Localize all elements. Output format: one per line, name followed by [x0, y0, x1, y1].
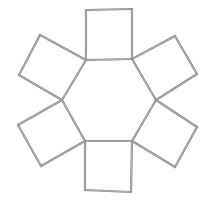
square-matchstick-highlight	[132, 141, 175, 167]
hexagon-matchstick-highlight	[62, 100, 85, 141]
square-matchstick-highlight	[156, 100, 197, 127]
matchstick-diagram	[0, 0, 210, 206]
square-bottom	[85, 141, 132, 192]
square-matchstick-highlight	[156, 74, 197, 100]
square-matchstick-highlight	[41, 141, 85, 166]
outer-squares	[18, 9, 197, 192]
square-matchstick-highlight	[19, 75, 62, 100]
square-lower-right	[132, 100, 197, 167]
square-matchstick-highlight	[18, 100, 62, 125]
diagram-svg	[0, 0, 210, 206]
square-upper-left	[19, 35, 86, 100]
hexagon-matchstick-highlight	[62, 60, 86, 100]
square-matchstick-highlight	[40, 35, 86, 60]
square-matchstick-highlight	[132, 36, 175, 59]
square-top	[86, 9, 132, 60]
square-matchstick-highlight	[19, 35, 40, 75]
hexagon-matchstick-highlight	[132, 100, 156, 141]
square-upper-right	[132, 36, 197, 100]
square-matchstick-highlight	[175, 36, 197, 74]
square-lower-left	[18, 100, 85, 166]
square-matchstick-highlight	[18, 125, 41, 166]
central-hexagon	[62, 59, 156, 141]
square-matchstick-highlight	[175, 127, 197, 167]
hexagon-matchstick-highlight	[132, 59, 156, 100]
